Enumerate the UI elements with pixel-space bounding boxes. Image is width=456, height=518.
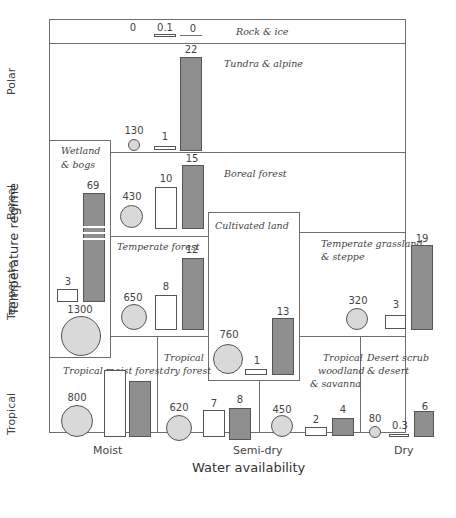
boreal-grey-bar <box>182 165 204 229</box>
desert-label-2: & desert <box>367 364 409 377</box>
desert-circle <box>369 426 381 438</box>
cultivated-circle-value: 760 <box>215 329 243 340</box>
tundra-grey-value: 22 <box>180 44 202 55</box>
boreal-temperate-divider-left <box>110 236 208 237</box>
tempforest-white-value: 8 <box>155 281 177 292</box>
desert-white-value: 0.3 <box>389 420 411 431</box>
wetland-bar-break <box>83 226 105 228</box>
tropical-divider-1 <box>157 336 158 433</box>
grassland-circle <box>346 308 368 330</box>
tropdry-white-value: 7 <box>203 398 225 409</box>
cultivated-circle <box>213 344 243 374</box>
grassland-circle-value: 320 <box>344 295 372 306</box>
rock-white-bar <box>154 34 176 37</box>
grassland-grey-bar <box>411 245 433 330</box>
tundra-white-bar <box>154 146 176 150</box>
tropical-divider-2 <box>259 380 260 433</box>
savanna-label-3: & savanna <box>310 377 361 390</box>
rock-divider <box>49 43 406 44</box>
polar-boreal-divider <box>110 152 406 153</box>
cultivated-white-bar <box>245 369 267 375</box>
tropdry-label-1: Tropical <box>164 351 204 364</box>
savanna-label-2: woodland <box>318 364 365 377</box>
tropmoist-white-bar <box>104 370 126 437</box>
temperate-tropical-divider-right <box>299 336 406 337</box>
y-axis-title: Temperature regime <box>6 183 21 315</box>
tropdry-white-bar <box>203 410 225 437</box>
desert-circle-value: 80 <box>365 413 385 424</box>
tropmoist-grey-bar <box>129 381 151 437</box>
boreal-label: Boreal forest <box>224 167 287 180</box>
boreal-white-value: 10 <box>155 173 177 184</box>
wetland-circle-value: 1300 <box>62 304 98 315</box>
tundra-grey-bar <box>180 57 202 151</box>
wetland-circle <box>61 316 101 356</box>
boreal-white-bar <box>155 187 177 229</box>
rock-white-value: 0.1 <box>153 22 177 33</box>
tundra-circle <box>128 139 140 151</box>
grassland-white-bar <box>385 315 406 329</box>
tundra-label: Tundra & alpine <box>224 57 303 70</box>
tropdry-label-2: dry forest <box>164 364 211 377</box>
tempforest-circle <box>121 304 147 330</box>
cultivated-white-value: 1 <box>246 355 268 366</box>
tropdry-circle-value: 620 <box>165 402 193 413</box>
wetland-bar-break <box>83 238 105 240</box>
cultivated-grey-bar <box>272 318 294 375</box>
savanna-grey-value: 4 <box>332 404 354 415</box>
savanna-label-1: Tropical <box>323 351 363 364</box>
tempforest-grey-value: 12 <box>181 244 203 255</box>
temperate-tropical-divider-left <box>110 336 208 337</box>
y-tick-polar: Polar <box>5 68 18 95</box>
desert-white-bar <box>389 434 409 437</box>
tropdry-grey-bar <box>229 408 251 440</box>
rock-grey-value: 0 <box>182 23 204 34</box>
wetland-label-1: Wetland <box>61 144 100 157</box>
tempforest-circle-value: 650 <box>119 292 147 303</box>
wetland-bar-break <box>83 232 105 234</box>
tropdry-grey-value: 8 <box>229 394 251 405</box>
tropmoist-circle <box>61 405 93 437</box>
wetland-label-2: & bogs <box>61 158 95 171</box>
tundra-white-value: 1 <box>154 131 176 142</box>
rock-grey-bar <box>180 35 202 36</box>
rock-label: Rock & ice <box>236 25 288 38</box>
wetland-grey-bar <box>83 193 105 302</box>
cultivated-grey-value: 13 <box>272 306 294 317</box>
savanna-white-bar <box>305 427 327 436</box>
grassland-grey-value: 19 <box>411 233 433 244</box>
grassland-label-2: & steppe <box>321 250 365 263</box>
tempforest-white-bar <box>155 295 177 330</box>
savanna-grey-bar <box>332 418 354 436</box>
x-tick-moist: Moist <box>93 444 122 457</box>
wetland-white-bar <box>57 289 78 302</box>
grassland-label-1: Temperate grassland <box>321 237 423 250</box>
boreal-grey-value: 15 <box>181 153 203 164</box>
x-tick-semidry: Semi-dry <box>233 444 283 457</box>
desert-grey-bar <box>414 411 434 437</box>
tundra-circle-value: 130 <box>122 125 146 136</box>
rock-circle-value: 0 <box>126 22 140 33</box>
wetland-grey-value: 69 <box>82 180 104 191</box>
x-axis-title: Water availability <box>192 460 305 475</box>
x-tick-dry: Dry <box>394 444 414 457</box>
tropdry-circle <box>166 415 192 441</box>
boreal-temperate-divider-right <box>299 232 406 233</box>
boreal-circle <box>120 205 143 228</box>
cultivated-label: Cultivated land <box>215 219 289 232</box>
desert-label-1: Desert scrub <box>367 351 429 364</box>
tempforest-grey-bar <box>182 258 204 330</box>
y-tick-tropical: Tropical <box>5 393 18 435</box>
grassland-white-value: 3 <box>385 299 407 310</box>
savanna-circle-value: 450 <box>268 404 296 415</box>
tropmoist-circle-value: 800 <box>63 392 91 403</box>
savanna-white-value: 2 <box>305 414 327 425</box>
wetland-white-value: 3 <box>58 276 78 287</box>
savanna-circle <box>271 415 293 437</box>
boreal-circle-value: 430 <box>118 191 146 202</box>
